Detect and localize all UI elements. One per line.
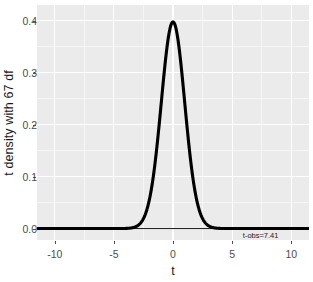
x-tick-mark xyxy=(232,241,233,244)
x-tick-mark xyxy=(114,241,115,244)
y-tick-mark xyxy=(33,73,36,74)
plot-panel: t-obs=7.41 xyxy=(37,5,309,240)
y-tick-mark xyxy=(33,177,36,178)
y-axis-ticks: 0.00.10.20.30.4 xyxy=(0,0,37,282)
y-tick-mark xyxy=(33,21,36,22)
y-tick-mark xyxy=(33,125,36,126)
x-tick-label: 0 xyxy=(153,248,193,260)
x-tick-mark xyxy=(291,241,292,244)
t-obs-annotation: t-obs=7.41 xyxy=(243,231,279,240)
density-curve-svg xyxy=(37,5,309,240)
y-tick-mark xyxy=(33,229,36,230)
chart-figure: t density with 67 df 0.00.10.20.30.4 t-o… xyxy=(0,0,313,282)
x-axis-title: t xyxy=(37,264,309,278)
x-tick-mark xyxy=(55,241,56,244)
x-tick-label: -10 xyxy=(35,248,75,260)
x-tick-label: 5 xyxy=(212,248,252,260)
x-tick-mark xyxy=(173,241,174,244)
x-tick-label: -5 xyxy=(94,248,134,260)
t-density-curve xyxy=(37,22,309,229)
x-tick-label: 10 xyxy=(271,248,311,260)
